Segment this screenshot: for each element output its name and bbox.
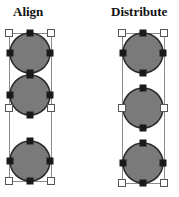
black-handle[interactable] xyxy=(160,50,167,57)
black-handle[interactable] xyxy=(140,140,147,147)
white-handle[interactable] xyxy=(6,178,13,185)
black-handle[interactable] xyxy=(7,92,14,99)
black-handle[interactable] xyxy=(120,160,127,167)
diagram-canvas xyxy=(0,0,179,197)
distribute-circle-3[interactable] xyxy=(123,143,163,183)
black-handle[interactable] xyxy=(140,125,147,132)
black-handle[interactable] xyxy=(140,30,147,37)
white-handle[interactable] xyxy=(6,30,13,37)
white-handle[interactable] xyxy=(161,105,168,112)
white-handle[interactable] xyxy=(119,105,126,112)
black-handle[interactable] xyxy=(7,158,14,165)
white-handle[interactable] xyxy=(119,180,126,187)
black-handle[interactable] xyxy=(160,160,167,167)
white-handle[interactable] xyxy=(161,30,168,37)
black-handle[interactable] xyxy=(27,72,34,79)
black-handle[interactable] xyxy=(27,30,34,37)
white-handle[interactable] xyxy=(6,105,13,112)
white-handle[interactable] xyxy=(161,180,168,187)
distribute-circle-1[interactable] xyxy=(123,33,163,73)
distribute-circle-2[interactable] xyxy=(123,88,163,128)
black-handle[interactable] xyxy=(27,112,34,119)
align-circle-1[interactable] xyxy=(10,33,50,73)
align-circle-3[interactable] xyxy=(10,141,50,181)
align-circle-2[interactable] xyxy=(10,75,50,115)
white-handle[interactable] xyxy=(48,30,55,37)
black-handle[interactable] xyxy=(140,85,147,92)
black-handle[interactable] xyxy=(27,138,34,145)
white-handle[interactable] xyxy=(48,105,55,112)
black-handle[interactable] xyxy=(47,50,54,57)
white-handle[interactable] xyxy=(119,30,126,37)
black-handle[interactable] xyxy=(140,70,147,77)
black-handle[interactable] xyxy=(120,50,127,57)
black-handle[interactable] xyxy=(47,158,54,165)
black-handle[interactable] xyxy=(7,50,14,57)
black-handle[interactable] xyxy=(27,178,34,185)
black-handle[interactable] xyxy=(140,180,147,187)
white-handle[interactable] xyxy=(48,178,55,185)
black-handle[interactable] xyxy=(47,92,54,99)
